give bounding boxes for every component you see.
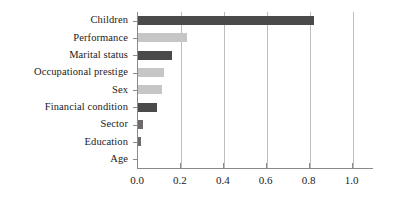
y-axis-label-row: Marital status xyxy=(0,47,133,64)
y-axis-label-row: Education xyxy=(0,133,133,150)
y-axis-tick-label: Sector xyxy=(101,119,128,130)
y-axis-tick xyxy=(133,55,137,56)
y-axis-tick xyxy=(133,73,137,74)
y-axis-tick-label: Marital status xyxy=(69,50,128,61)
y-axis-tick xyxy=(133,142,137,143)
bar-row xyxy=(138,99,373,116)
bar-row xyxy=(138,12,373,29)
y-axis-tick xyxy=(133,107,137,108)
bar-row xyxy=(138,64,373,81)
x-axis-line xyxy=(137,168,373,169)
y-axis-tick xyxy=(133,21,137,22)
x-axis-tick-label: 0.0 xyxy=(130,174,144,186)
y-axis-label-row: Occupational prestige xyxy=(0,64,133,81)
y-axis-label-row: Sector xyxy=(0,116,133,133)
bar-row xyxy=(138,151,373,168)
bars-container xyxy=(138,12,373,168)
bar-row xyxy=(138,116,373,133)
bar-row xyxy=(138,133,373,150)
bar-row xyxy=(138,29,373,46)
bar-education xyxy=(138,137,141,146)
bar-row xyxy=(138,81,373,98)
y-axis-label-row: Age xyxy=(0,151,133,168)
bar-performance xyxy=(138,33,187,42)
y-axis-label-row: Performance xyxy=(0,29,133,46)
x-axis-tick-label: 0.8 xyxy=(302,174,316,186)
y-axis-tick-label: Financial condition xyxy=(45,102,128,113)
bar-financial-condition xyxy=(138,103,157,112)
y-axis-tick-label: Age xyxy=(110,154,128,165)
bar-sex xyxy=(138,85,162,94)
x-axis-tick-label: 0.2 xyxy=(173,174,187,186)
bar-row xyxy=(138,47,373,64)
y-axis-labels: Children Performance Marital status Occu… xyxy=(0,12,133,168)
y-axis-tick xyxy=(133,125,137,126)
x-axis-tick-label: 0.4 xyxy=(216,174,230,186)
y-axis-label-row: Children xyxy=(0,12,133,29)
y-axis-tick-label: Education xyxy=(85,137,128,148)
bar-occupational-prestige xyxy=(138,68,164,77)
y-axis-label-row: Sex xyxy=(0,81,133,98)
y-axis-tick xyxy=(133,90,137,91)
y-axis-tick-label: Performance xyxy=(73,33,128,44)
bar-marital-status xyxy=(138,51,172,60)
y-axis-tick xyxy=(133,159,137,160)
bar-chart: Children Performance Marital status Occu… xyxy=(0,0,395,213)
y-axis-tick xyxy=(133,38,137,39)
y-axis-label-row: Financial condition xyxy=(0,99,133,116)
plot-area xyxy=(137,12,373,168)
y-axis-tick-label: Sex xyxy=(112,85,128,96)
y-axis-tick-label: Occupational prestige xyxy=(34,67,128,78)
x-axis-tick-label: 1.0 xyxy=(345,174,359,186)
x-axis-tick-label: 0.6 xyxy=(259,174,273,186)
bar-sector xyxy=(138,120,143,129)
y-axis-tick-label: Children xyxy=(90,15,128,26)
bar-children xyxy=(138,16,314,25)
